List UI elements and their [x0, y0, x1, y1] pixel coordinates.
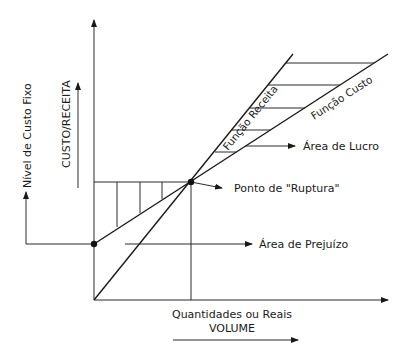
- x-axis-label: Quantidades ou Reais: [172, 308, 292, 321]
- loss-area-label: Área de Prejuízo: [259, 238, 348, 251]
- breakeven-arrow: [191, 182, 222, 188]
- breakeven-point: [188, 179, 194, 185]
- breakeven-label: Ponto de "Ruptura": [234, 182, 340, 195]
- fixed-cost-level-label: Nível de Custo Fixo: [21, 83, 34, 188]
- break-even-diagram: Nível de Custo Fixo CUSTO/RECEITA Função…: [0, 0, 409, 362]
- cost-revenue-label: CUSTO/RECEITA: [60, 80, 73, 168]
- volume-label: VOLUME: [209, 322, 255, 335]
- fixed-cost-point: [91, 241, 97, 247]
- cost-line-label: Função Custo: [309, 73, 375, 122]
- revenue-line-label: Função Receita: [220, 83, 280, 153]
- profit-area-label: Área de Lucro: [303, 140, 379, 153]
- fixed-cost-arrow: [26, 192, 94, 244]
